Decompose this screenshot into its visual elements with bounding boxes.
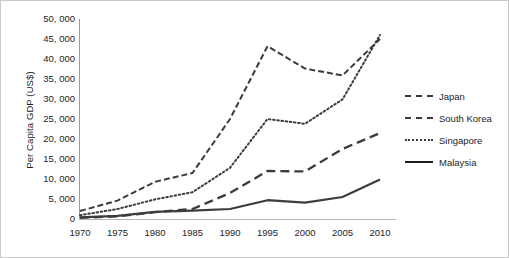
series-line-malaysia (80, 179, 380, 217)
legend-swatch-icon (405, 113, 433, 123)
legend-entry-singapore[interactable]: Singapore (405, 129, 507, 151)
legend-swatch-icon (405, 135, 433, 145)
legend-entry-malaysia[interactable]: Malaysia (405, 151, 507, 173)
legend-entry-japan[interactable]: Japan (405, 85, 507, 107)
legend-label: Singapore (439, 135, 482, 146)
chart-figure: Per Capita GDP (US$) 05, 00010, 00015, 0… (0, 0, 509, 258)
legend-entry-south-korea[interactable]: South Korea (405, 107, 507, 129)
legend-label: Japan (439, 91, 465, 102)
series-line-japan (80, 39, 380, 211)
legend-label: South Korea (439, 113, 492, 124)
chart-legend: JapanSouth KoreaSingaporeMalaysia (405, 85, 507, 173)
series-line-south-korea (80, 133, 380, 218)
legend-swatch-icon (405, 91, 433, 101)
series-line-singapore (80, 35, 380, 215)
legend-swatch-icon (405, 157, 433, 167)
legend-label: Malaysia (439, 157, 477, 168)
